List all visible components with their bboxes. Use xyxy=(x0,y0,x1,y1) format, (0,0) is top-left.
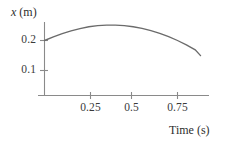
y-axis-unit: (m) xyxy=(19,5,36,19)
y-tick-label-0.1: 0.1 xyxy=(8,63,36,75)
y-tick-label-0.2: 0.2 xyxy=(8,33,36,45)
x-tick-label-0.75: 0.75 xyxy=(159,101,196,113)
x-axis-title: Time (s) xyxy=(169,123,210,138)
y-axis-title: x (m) xyxy=(11,5,37,20)
x-tick-label-0.25: 0.25 xyxy=(72,101,109,113)
position-curve xyxy=(45,25,201,56)
x-tick-label-0.5: 0.5 xyxy=(114,101,149,113)
position-vs-time-chart: 0.2 0.1 0.25 0.5 0.75 x (m) Time (s) xyxy=(0,0,236,141)
